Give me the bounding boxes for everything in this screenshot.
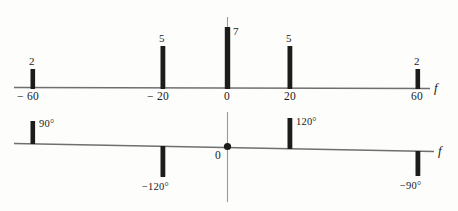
magnitude-stem-neg60 <box>31 69 36 89</box>
phase-axis-variable-label: f <box>438 144 442 157</box>
magnitude-axis-variable-label: f <box>434 81 438 94</box>
magnitude-value-label-pos60: 2 <box>414 56 420 67</box>
phase-spectrum-panel: 90° −120° 120° −90° 0 f <box>0 105 458 211</box>
phase-value-label-pos20: 120° <box>296 117 317 128</box>
spectrum-figure: 2 5 7 5 2 − 60 − 20 0 20 60 f <box>0 0 458 211</box>
phase-stem-pos20 <box>288 118 293 149</box>
phase-stem-pos60 <box>416 151 421 176</box>
magnitude-value-label-pos20: 5 <box>286 33 292 44</box>
phase-origin-dot <box>224 143 231 150</box>
magnitude-tick-label-neg60: − 60 <box>17 91 39 103</box>
phase-value-label-neg60: 90° <box>39 119 54 130</box>
magnitude-stem-neg20 <box>161 46 166 89</box>
magnitude-stem-zero <box>225 27 230 89</box>
magnitude-stem-pos60 <box>416 69 421 89</box>
magnitude-tick-label-zero: 0 <box>224 91 230 103</box>
magnitude-stem-pos20 <box>288 46 293 89</box>
magnitude-tick-label-neg20: − 20 <box>147 91 169 103</box>
phase-value-label-pos60: −90° <box>400 181 421 192</box>
magnitude-tick-label-pos60: 60 <box>411 91 423 103</box>
magnitude-spectrum-panel: 2 5 7 5 2 − 60 − 20 0 20 60 f <box>0 0 458 105</box>
magnitude-value-label-neg60: 2 <box>29 56 35 67</box>
phase-horizontal-axis <box>14 144 434 152</box>
phase-stem-neg60 <box>31 121 36 144</box>
phase-plot-canvas <box>0 105 458 211</box>
magnitude-value-label-neg20: 5 <box>159 33 165 44</box>
phase-stem-neg20 <box>161 146 166 177</box>
phase-value-label-neg20: −120° <box>142 182 169 193</box>
phase-origin-label: 0 <box>215 150 221 162</box>
magnitude-value-label-zero: 7 <box>233 26 239 37</box>
magnitude-tick-label-pos20: 20 <box>284 91 296 103</box>
magnitude-horizontal-axis <box>14 88 430 89</box>
